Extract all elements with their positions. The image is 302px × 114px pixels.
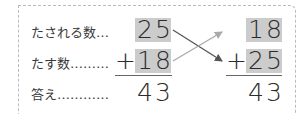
- swap-arrows: [0, 0, 302, 114]
